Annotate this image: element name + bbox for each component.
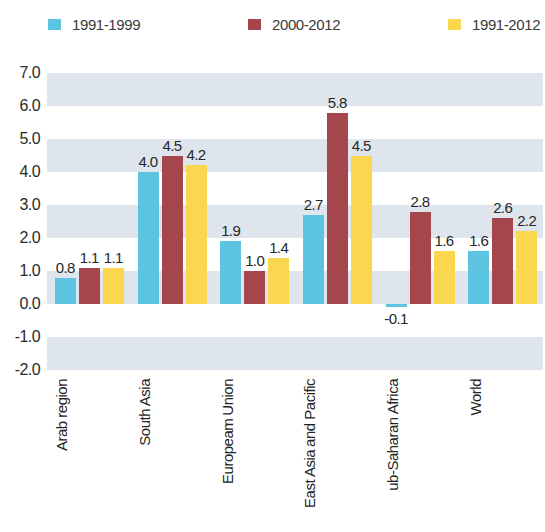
bar[interactable] xyxy=(268,258,289,304)
x-axis-category-label: Arab region xyxy=(53,376,125,532)
y-axis-tick-label: 6.0 xyxy=(20,97,40,115)
bar-value-label: 4.2 xyxy=(179,146,213,163)
bar-group: 1.91.01.4 xyxy=(220,73,289,370)
bar-value-label: 2.2 xyxy=(510,212,544,229)
legend-label: 2000-2012 xyxy=(272,16,340,33)
y-axis-tick-label: -1.0 xyxy=(15,328,40,346)
bars-container: 0.81.11.14.04.54.21.91.01.42.75.84.5-0.1… xyxy=(47,73,543,370)
bar-group: 1.62.62.2 xyxy=(468,73,537,370)
legend-item[interactable]: 1991-1999 xyxy=(48,12,140,36)
y-axis-tick-label: 0.0 xyxy=(20,295,40,313)
bar[interactable] xyxy=(410,212,431,304)
y-axis-tick-label: 2.0 xyxy=(20,229,40,247)
bar-value-label: 1.6 xyxy=(462,232,496,249)
bar[interactable] xyxy=(79,268,100,304)
x-axis: Arab regionSouth AsiaEuropeamUnionEast A… xyxy=(47,376,543,532)
y-axis-tick-label: 7.0 xyxy=(20,64,40,82)
x-axis-category-line: Arab region xyxy=(53,379,70,451)
bar[interactable] xyxy=(434,251,455,304)
x-axis-category-line: Africa xyxy=(384,379,401,414)
legend-item[interactable]: 2000-2012 xyxy=(248,12,340,36)
x-axis-category-label: EuropeamUnion xyxy=(219,376,291,532)
bar-group: -0.12.81.6 xyxy=(386,73,455,370)
x-axis-category-label: World xyxy=(467,376,539,532)
legend-label: 1991-2012 xyxy=(472,16,540,33)
bar[interactable] xyxy=(516,231,537,304)
x-axis-category-line: and Pacific xyxy=(301,379,318,447)
bar-group: 0.81.11.1 xyxy=(55,73,124,370)
x-axis-category-label: ub-SaharanAfrica xyxy=(384,376,456,532)
bar-value-label: 5.8 xyxy=(320,94,354,111)
bar[interactable] xyxy=(492,218,513,304)
bar[interactable] xyxy=(468,251,489,304)
bar[interactable] xyxy=(138,172,159,304)
x-axis-category-line: Europeam xyxy=(219,419,236,484)
bar[interactable] xyxy=(220,241,241,304)
bar[interactable] xyxy=(303,215,324,304)
x-axis-category-line: ub-Saharan xyxy=(384,417,401,490)
x-axis-category-label: South Asia xyxy=(136,376,208,532)
bar[interactable] xyxy=(386,304,407,307)
y-axis-tick-label: 5.0 xyxy=(20,130,40,148)
y-axis-tick-label: 4.0 xyxy=(20,163,40,181)
bar[interactable] xyxy=(186,165,207,304)
x-axis-category-label: East Asiaand Pacific xyxy=(301,376,373,532)
legend-swatch-icon xyxy=(448,19,461,30)
legend-label: 1991-1999 xyxy=(72,16,140,33)
y-axis-tick-label: 3.0 xyxy=(20,196,40,214)
y-axis: 7.06.05.04.03.02.01.00.0-1.0-2.0 xyxy=(0,73,45,370)
bar-value-label: 1.4 xyxy=(262,239,296,256)
bar-value-label: 1.1 xyxy=(96,249,130,266)
bar-value-label: 1.9 xyxy=(214,222,248,239)
bar-group: 2.75.84.5 xyxy=(303,73,372,370)
bar[interactable] xyxy=(162,156,183,305)
bar-value-label: 2.8 xyxy=(403,193,437,210)
x-axis-category-line: East Asia xyxy=(301,450,318,508)
bar-value-label: 2.7 xyxy=(296,196,330,213)
y-axis-tick-label: -2.0 xyxy=(15,361,40,379)
bar-value-label: -0.1 xyxy=(379,310,413,327)
x-axis-category-line: Union xyxy=(219,379,236,416)
plot-area: 0.81.11.14.04.54.21.91.01.42.75.84.5-0.1… xyxy=(47,73,543,370)
bar-group: 4.04.54.2 xyxy=(138,73,207,370)
y-axis-tick-label: 1.0 xyxy=(20,262,40,280)
bar-chart: 1991-19992000-20121991-2012 7.06.05.04.0… xyxy=(0,0,545,532)
chart-legend: 1991-19992000-20121991-2012 xyxy=(0,12,545,40)
bar[interactable] xyxy=(103,268,124,304)
legend-item[interactable]: 1991-2012 xyxy=(448,12,540,36)
bar[interactable] xyxy=(55,278,76,304)
bar-value-label: 4.0 xyxy=(131,153,165,170)
bar[interactable] xyxy=(244,271,265,304)
bar-value-label: 4.5 xyxy=(344,137,378,154)
bar[interactable] xyxy=(351,156,372,305)
legend-swatch-icon xyxy=(248,19,261,30)
x-axis-category-line: World xyxy=(467,379,484,415)
legend-swatch-icon xyxy=(48,19,61,30)
bar-value-label: 1.6 xyxy=(427,232,461,249)
x-axis-category-line: South Asia xyxy=(136,379,153,446)
